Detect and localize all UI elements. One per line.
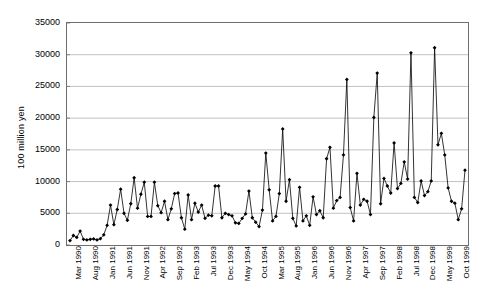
x-tick-label: Aug 1990	[90, 246, 101, 304]
data-point	[439, 131, 443, 135]
data-point	[372, 116, 376, 120]
y-axis-tick-labels: 05000100001500020000250003000035000	[18, 0, 60, 305]
data-point	[119, 187, 123, 191]
data-point	[450, 199, 454, 203]
data-point	[186, 193, 190, 197]
data-point	[213, 184, 217, 188]
x-tick-label: Mar 1995	[276, 246, 287, 304]
data-point	[325, 157, 329, 161]
data-point	[328, 145, 332, 149]
data-point	[156, 204, 160, 208]
data-point	[163, 199, 167, 203]
y-tick-marks	[67, 23, 70, 245]
data-point	[443, 153, 447, 157]
data-point	[78, 229, 82, 233]
data-point	[419, 179, 423, 183]
data-point	[149, 215, 153, 219]
data-point	[358, 203, 362, 207]
data-point	[463, 168, 467, 172]
data-point	[362, 197, 366, 201]
gridlines	[67, 55, 468, 214]
data-point	[75, 235, 79, 239]
x-tick-label: Oct 1994	[259, 246, 270, 304]
y-tick-label: 10000	[18, 176, 60, 185]
data-point	[365, 199, 369, 203]
x-tick-label: Aug 1995	[292, 246, 303, 304]
data-point	[95, 238, 99, 242]
data-point	[159, 211, 163, 215]
data-point	[125, 218, 129, 222]
x-tick-label: Feb 1998	[394, 246, 405, 304]
x-tick-label: Feb 1993	[191, 246, 202, 304]
data-point	[261, 208, 265, 212]
data-point	[284, 199, 288, 203]
x-tick-label: Oct 1999	[461, 246, 472, 304]
data-point	[379, 202, 383, 206]
data-point	[331, 206, 335, 210]
data-point	[88, 237, 92, 241]
data-point	[109, 203, 113, 207]
data-point	[82, 237, 86, 241]
data-point	[210, 214, 214, 218]
data-point	[115, 208, 119, 212]
data-point	[294, 224, 298, 228]
x-tick-label: Nov 1991	[141, 246, 152, 304]
x-tick-label: Apr 1992	[157, 246, 168, 304]
data-point	[456, 218, 460, 222]
data-point	[132, 176, 136, 180]
data-point	[281, 127, 285, 131]
x-tick-label: Jun 1996	[326, 246, 337, 304]
data-point	[446, 186, 450, 190]
data-point	[355, 171, 359, 175]
data-point	[230, 214, 234, 218]
data-point	[382, 177, 386, 181]
data-point	[375, 71, 379, 75]
data-point	[436, 143, 440, 147]
data-point	[429, 179, 433, 183]
data-point	[288, 178, 292, 182]
data-point	[460, 207, 464, 211]
data-point	[142, 180, 146, 184]
x-tick-label: Sep 1997	[377, 246, 388, 304]
data-point	[105, 223, 109, 227]
data-point	[352, 219, 356, 223]
line-chart: 100 million yen 050001000015000200002500…	[0, 0, 487, 305]
data-point	[385, 184, 389, 188]
data-point	[173, 192, 177, 196]
x-tick-label: Apr 1997	[360, 246, 371, 304]
x-axis-tick-labels: Mar 1990Aug 1990Jan 1991Jun 1991Nov 1991…	[66, 246, 467, 305]
x-tick-label: Jan 1991	[107, 246, 118, 304]
series-line	[70, 48, 465, 241]
data-point	[200, 203, 204, 207]
data-point	[247, 189, 251, 193]
x-tick-label: Jul 1998	[411, 246, 422, 304]
data-point	[190, 218, 194, 222]
data-point	[234, 221, 238, 225]
y-tick-label: 15000	[18, 144, 60, 153]
data-point	[217, 184, 221, 188]
data-point	[298, 185, 302, 189]
data-point	[166, 218, 170, 222]
x-tick-label: Jan 1996	[309, 246, 320, 304]
data-point	[409, 51, 413, 55]
data-point	[345, 78, 349, 82]
data-point	[139, 192, 143, 196]
data-point	[169, 207, 173, 211]
data-point	[308, 223, 312, 227]
y-tick-label: 20000	[18, 113, 60, 122]
data-point	[291, 216, 295, 220]
data-point	[277, 192, 281, 196]
data-point	[311, 195, 315, 199]
data-point	[406, 177, 410, 181]
data-point	[267, 188, 271, 192]
y-tick-label: 0	[18, 240, 60, 249]
data-point	[193, 201, 197, 205]
data-point	[321, 216, 325, 220]
data-point	[85, 238, 89, 242]
x-tick-label: May 1994	[242, 246, 253, 304]
x-tick-label: Jun 1991	[124, 246, 135, 304]
data-point	[136, 206, 140, 210]
data-point	[153, 180, 157, 184]
x-tick-label: Dec 1993	[225, 246, 236, 304]
data-point	[342, 153, 346, 157]
